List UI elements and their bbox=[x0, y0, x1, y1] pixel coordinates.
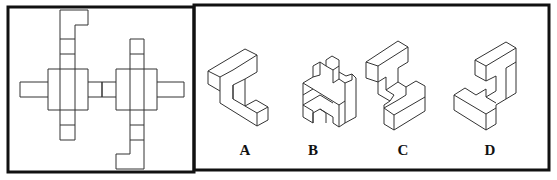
option-d-figure[interactable] bbox=[454, 42, 516, 130]
net-panel-frame bbox=[8, 7, 194, 172]
option-d-label: D bbox=[485, 142, 496, 158]
net-left-strip bbox=[60, 10, 88, 140]
option-b-label: B bbox=[308, 142, 318, 158]
option-a-label: A bbox=[240, 142, 251, 158]
net-left-cross bbox=[20, 69, 102, 110]
net-right-strip bbox=[116, 39, 144, 169]
unfolded-net bbox=[20, 10, 184, 169]
option-c-label: C bbox=[398, 142, 409, 158]
net-right-cross bbox=[102, 69, 184, 110]
option-a-figure[interactable] bbox=[208, 49, 268, 126]
option-b-figure[interactable] bbox=[303, 56, 356, 127]
puzzle-figure: A B C bbox=[0, 0, 557, 180]
option-c-figure[interactable] bbox=[366, 41, 425, 130]
